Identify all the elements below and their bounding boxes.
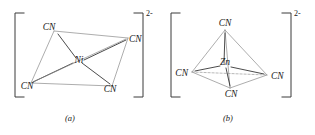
figure-canvas: CN CN CN CN Ni 2- (a) xyxy=(0,0,315,135)
ligand-label-a-bottom-right: CN xyxy=(104,84,117,94)
edge-bottomleft-bottomright-a xyxy=(31,83,112,86)
ligand-label-a-top-left: CN xyxy=(43,22,56,32)
structure-a: CN CN CN CN Ni 2- (a) xyxy=(15,9,153,123)
ligand-label-a-bottom-left: CN xyxy=(21,81,34,91)
edge-topleft-right-a xyxy=(54,31,128,38)
edge-front-right-b xyxy=(230,75,267,88)
ligand-label-a-right: CN xyxy=(129,34,142,44)
ligand-label-b-left: CN xyxy=(175,68,188,78)
charge-label-a: 2- xyxy=(146,9,153,18)
caption-a: (a) xyxy=(65,113,75,123)
edge-topleft-bottomleft-a xyxy=(31,31,54,83)
ligand-label-b-right: CN xyxy=(271,71,284,81)
bond-ni-topleft-a xyxy=(58,34,76,58)
bracket-right-b xyxy=(282,13,291,97)
bond-ni-bottomright-a xyxy=(82,63,110,84)
structure-b: CN CN CN CN Zn 2- (b) xyxy=(171,9,301,123)
center-atom-label-a: Ni xyxy=(74,55,84,65)
bond-zn-right-b xyxy=(231,67,264,74)
edge-apex-right-b xyxy=(225,30,267,75)
bond-ni-right-a xyxy=(84,40,126,60)
bracket-right-a xyxy=(134,13,143,97)
caption-b: (b) xyxy=(223,113,233,123)
ligand-label-b-top: CN xyxy=(219,18,232,28)
bracket-left-b xyxy=(171,13,180,97)
edge-left-front-b xyxy=(192,72,230,88)
charge-label-b: 2- xyxy=(294,9,301,18)
bond-zn-left-b xyxy=(195,66,220,71)
center-atom-label-b: Zn xyxy=(220,57,230,67)
ligand-label-b-bottom-front: CN xyxy=(225,89,238,99)
